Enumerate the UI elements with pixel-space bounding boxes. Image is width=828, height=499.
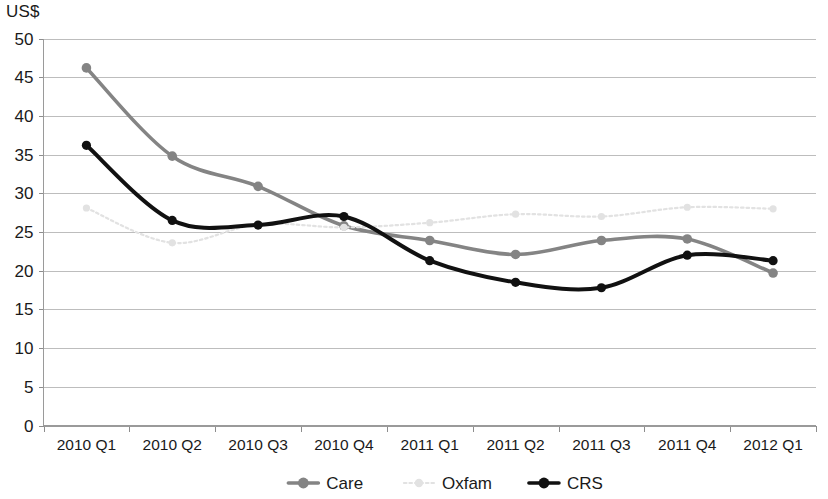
x-axis-tick-labels: 2010 Q12010 Q22010 Q32010 Q42011 Q12011 … <box>57 436 803 453</box>
y-axis-tick-label: 40 <box>15 107 34 126</box>
line-chart: US$ 05101520253035404550 2010 Q12010 Q22… <box>0 0 828 499</box>
data-point <box>82 141 91 150</box>
data-point <box>83 204 90 211</box>
data-point <box>425 236 435 246</box>
data-point <box>511 250 521 260</box>
series-care <box>82 63 778 278</box>
chart-legend: CareOxfamCRS <box>288 474 603 493</box>
data-point <box>768 268 778 278</box>
data-point <box>82 63 92 73</box>
legend-label: CRS <box>567 474 603 493</box>
y-axis-tick-label: 25 <box>15 223 34 242</box>
legend-swatch-marker <box>298 478 309 489</box>
y-axis-tick-labels: 05101520253035404550 <box>15 30 34 436</box>
y-axis-tick-label: 0 <box>24 417 33 436</box>
legend-swatch-marker <box>539 478 550 489</box>
y-axis-tick-label: 35 <box>15 146 34 165</box>
y-axis-tick-label: 20 <box>15 262 34 281</box>
legend-label: Oxfam <box>442 474 492 493</box>
y-axis-tick-label: 45 <box>15 68 34 87</box>
legend-swatch-marker <box>415 479 423 487</box>
x-axis-tick-label: 2012 Q1 <box>743 436 802 453</box>
gridlines <box>44 40 817 427</box>
data-point <box>598 213 605 220</box>
x-axis-tick-label: 2010 Q3 <box>228 436 287 453</box>
data-point <box>683 251 692 260</box>
data-point <box>169 239 176 246</box>
data-point <box>512 211 519 218</box>
legend-item-care[interactable]: Care <box>288 474 363 493</box>
y-axis-tick-label: 50 <box>15 30 34 49</box>
data-point <box>426 219 433 226</box>
data-point <box>340 224 347 231</box>
y-axis-tick-label: 15 <box>15 300 34 319</box>
data-point <box>682 234 692 244</box>
y-axis-tick-label: 30 <box>15 184 34 203</box>
axis-ticks <box>39 40 817 432</box>
data-point <box>684 204 691 211</box>
x-axis-tick-label: 2010 Q4 <box>314 436 374 453</box>
data-point <box>511 278 520 287</box>
data-point <box>167 151 177 161</box>
x-axis-tick-label: 2011 Q1 <box>401 436 459 453</box>
x-axis-tick-label: 2011 Q2 <box>486 436 544 453</box>
x-axis-tick-label: 2010 Q1 <box>57 436 116 453</box>
x-axis-tick-label: 2011 Q4 <box>658 436 717 453</box>
data-point <box>768 256 777 265</box>
data-point <box>253 182 263 192</box>
x-axis-tick-label: 2010 Q2 <box>143 436 202 453</box>
legend-item-crs[interactable]: CRS <box>529 474 603 493</box>
data-series <box>82 63 778 292</box>
x-axis-tick-label: 2011 Q3 <box>572 436 630 453</box>
data-point <box>597 283 606 292</box>
data-point <box>425 256 434 265</box>
legend-label: Care <box>326 474 363 493</box>
y-axis-tick-label: 5 <box>24 378 33 397</box>
data-point <box>253 220 262 229</box>
data-point <box>597 236 607 246</box>
chart-plot-area: 05101520253035404550 2010 Q12010 Q22010 … <box>0 0 828 499</box>
chart-page: US$ 05101520253035404550 2010 Q12010 Q22… <box>0 0 828 499</box>
y-axis-tick-label: 10 <box>15 339 34 358</box>
data-point <box>168 216 177 225</box>
legend-item-oxfam[interactable]: Oxfam <box>404 474 492 493</box>
data-point <box>339 212 348 221</box>
data-point <box>769 205 776 212</box>
